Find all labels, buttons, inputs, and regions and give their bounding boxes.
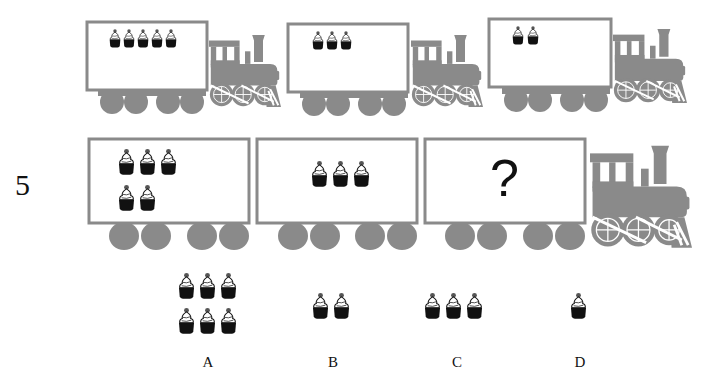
cupcake-icon bbox=[179, 273, 194, 299]
option-b-cupcakes[interactable] bbox=[313, 293, 349, 319]
cupcake-icon bbox=[313, 293, 328, 319]
train-car-wheels bbox=[278, 222, 417, 250]
example-train-3 bbox=[489, 19, 687, 112]
example-train-2 bbox=[288, 24, 483, 116]
example-train-1 bbox=[87, 22, 281, 114]
cupcake-icon bbox=[334, 293, 349, 319]
cupcake-icon bbox=[221, 273, 236, 299]
cupcake-icon bbox=[179, 308, 194, 334]
option-c-label[interactable]: C bbox=[447, 354, 467, 371]
cupcake-icon bbox=[221, 308, 236, 334]
option-b-label[interactable]: B bbox=[323, 354, 343, 371]
cupcake-icon bbox=[446, 293, 461, 319]
train-car-wheels bbox=[445, 222, 585, 250]
locomotive-icon bbox=[209, 35, 281, 107]
locomotive-icon bbox=[590, 146, 692, 248]
locomotive-icon bbox=[613, 29, 687, 103]
question-number: 5 bbox=[15, 168, 30, 202]
train-car-box bbox=[288, 24, 408, 92]
question-car-2 bbox=[257, 139, 417, 250]
train-car-box bbox=[87, 22, 207, 90]
option-a-label[interactable]: A bbox=[198, 354, 218, 371]
cupcake-group bbox=[312, 161, 369, 187]
train-car-wheels bbox=[300, 90, 408, 116]
option-d-label[interactable]: D bbox=[570, 354, 590, 371]
option-c-cupcakes[interactable] bbox=[425, 293, 482, 319]
puzzle-canvas bbox=[0, 0, 715, 385]
train-car-wheels bbox=[98, 88, 206, 114]
train-car-wheels bbox=[502, 86, 610, 112]
cupcake-icon bbox=[200, 273, 215, 299]
locomotive-icon bbox=[411, 35, 483, 107]
option-d-cupcakes[interactable] bbox=[571, 293, 586, 319]
train-car-box bbox=[489, 19, 611, 87]
cupcake-icon bbox=[467, 293, 482, 319]
cupcake-icon bbox=[200, 308, 215, 334]
cupcake-icon bbox=[571, 293, 586, 319]
unknown-car-question-mark: ? bbox=[490, 148, 519, 208]
train-car-wheels bbox=[109, 222, 249, 250]
option-a-cupcakes[interactable] bbox=[179, 273, 236, 334]
cupcake-icon bbox=[425, 293, 440, 319]
question-car-1 bbox=[89, 139, 249, 250]
cupcake-group bbox=[313, 31, 352, 49]
